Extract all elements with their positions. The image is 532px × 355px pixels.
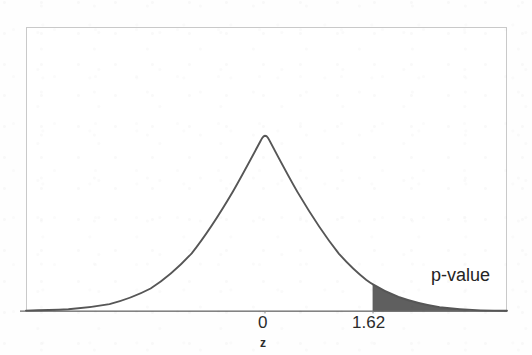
x-tick-label-zero: 0 <box>258 314 267 331</box>
figure-normal-curve-pvalue: 0 z 1.62 p-value <box>0 0 532 355</box>
x-axis-title: z <box>260 337 266 349</box>
x-tick-label-cutoff: 1.62 <box>352 314 385 331</box>
pvalue-region-label: p-value <box>431 266 490 284</box>
normal-distribution-plot <box>0 0 532 355</box>
